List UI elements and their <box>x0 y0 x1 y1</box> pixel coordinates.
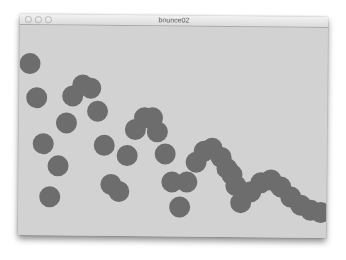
ball <box>39 186 60 207</box>
ball <box>86 100 107 121</box>
ball <box>154 143 175 164</box>
ball <box>146 121 167 142</box>
ball <box>47 155 68 176</box>
ball <box>80 77 101 98</box>
ball <box>26 87 47 108</box>
sketch-canvas[interactable] <box>18 25 328 238</box>
ball <box>169 196 190 217</box>
ball <box>310 201 328 222</box>
ball <box>32 133 53 154</box>
app-window: bounce02 <box>18 14 328 238</box>
ball <box>55 112 76 133</box>
ball <box>108 180 129 201</box>
ball <box>93 134 114 155</box>
ball <box>176 171 197 192</box>
ball <box>116 145 137 166</box>
ball <box>19 53 40 74</box>
